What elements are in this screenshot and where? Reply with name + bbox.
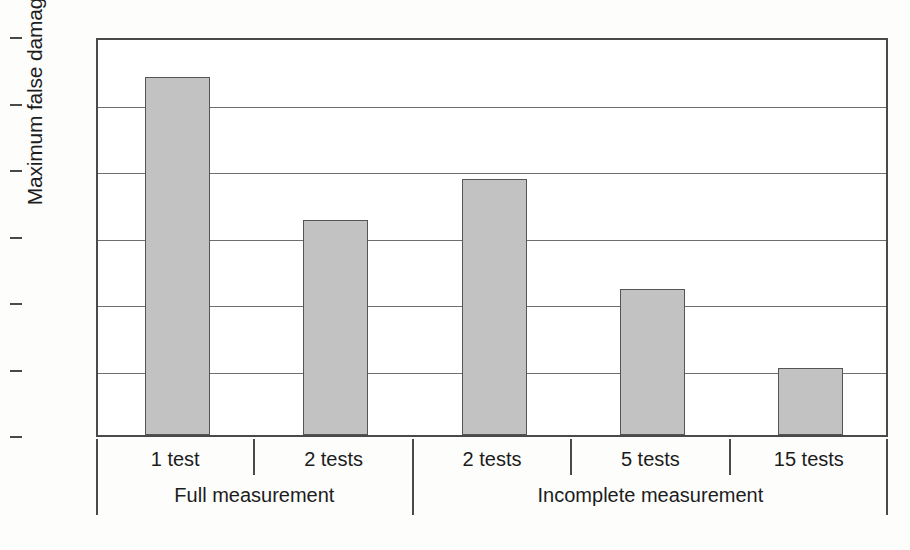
- x-axis-label-band: 1 test2 tests2 tests5 tests15 testsFull …: [96, 437, 888, 515]
- figure-caption: [30, 539, 880, 550]
- bar: [145, 77, 210, 435]
- x-category-label: 1 test: [96, 445, 254, 473]
- y-tick-mark-4: [10, 170, 22, 172]
- y-tick-mark-5: [10, 104, 22, 106]
- y-tick-mark-3: [10, 237, 22, 239]
- x-group-label: Incomplete measurement: [413, 481, 888, 509]
- bar: [462, 179, 527, 435]
- y-tick-mark-0: [10, 436, 22, 438]
- x-category-label: 2 tests: [254, 445, 412, 473]
- y-tick-mark-1: [10, 370, 22, 372]
- x-category-label: 5 tests: [571, 445, 729, 473]
- bar: [620, 289, 685, 435]
- bar: [303, 220, 368, 435]
- gridline-4: [98, 173, 886, 174]
- gridline-5: [98, 107, 886, 108]
- bar: [778, 368, 843, 435]
- category-separator: [570, 439, 572, 475]
- x-group-label: Full measurement: [96, 481, 413, 509]
- y-tick-mark-6: [10, 37, 22, 39]
- category-separator: [729, 439, 731, 475]
- x-category-label: 15 tests: [730, 445, 888, 473]
- y-axis-title: Maximum false damage (%): [18, 0, 52, 262]
- plot-area: [96, 38, 888, 437]
- y-tick-mark-2: [10, 303, 22, 305]
- figure-bar-chart: Maximum false damage (%) 6543210 1 test2…: [0, 0, 910, 550]
- x-category-label: 2 tests: [413, 445, 571, 473]
- category-separator: [253, 439, 255, 475]
